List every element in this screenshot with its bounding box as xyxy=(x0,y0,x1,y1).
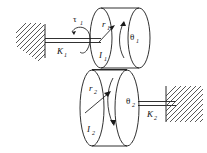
figure-canvas: τ 1 K 1 r 1 I 1 θ 1 r 2 I xyxy=(0,0,207,153)
right-spring-subscript: 2 xyxy=(154,115,157,121)
lower-angle-subscript: 2 xyxy=(132,102,135,108)
torsional-system-diagram: τ 1 K 1 r 1 I 1 θ 1 r 2 I xyxy=(0,0,207,153)
left-fixed-support xyxy=(16,23,45,61)
upper-inertia-subscript: 1 xyxy=(104,56,107,62)
upper-angle-symbol: θ xyxy=(130,32,134,42)
right-spring-symbol: K xyxy=(146,109,154,119)
left-spring-label: K 1 xyxy=(56,46,67,58)
torque-label: τ 1 xyxy=(73,14,83,26)
upper-inertia-label: I 1 xyxy=(98,50,107,62)
upper-inertia-symbol: I xyxy=(98,50,103,60)
lower-cylinder xyxy=(80,70,139,146)
lower-inertia-symbol: I xyxy=(86,124,91,134)
torque-symbol: τ xyxy=(73,14,77,24)
lower-rotation-arc xyxy=(108,78,113,124)
lower-radius-symbol: r xyxy=(89,83,93,93)
lower-inertia-subscript: 2 xyxy=(92,130,95,136)
left-spring-subscript: 1 xyxy=(64,52,67,58)
torque-subscript: 1 xyxy=(80,20,83,26)
lower-angle-symbol: θ xyxy=(126,96,130,106)
torque-arrow xyxy=(72,27,90,53)
lower-angle-label: θ 2 xyxy=(126,96,135,108)
torque-arc-right xyxy=(80,28,90,53)
right-spring-label: K 2 xyxy=(146,109,157,121)
lower-radius-subscript: 2 xyxy=(94,89,97,95)
right-wall-hatching xyxy=(166,86,203,122)
upper-radius-subscript: 1 xyxy=(107,25,110,31)
right-fixed-support xyxy=(166,86,203,122)
upper-radius-label: r 1 xyxy=(102,19,110,31)
lower-radius-label: r 2 xyxy=(89,83,97,95)
left-spring-symbol: K xyxy=(56,46,64,56)
lower-inertia-label: I 2 xyxy=(86,124,95,136)
upper-angle-label: θ 1 xyxy=(130,32,139,44)
lower-cylinder-right-face xyxy=(115,70,139,146)
upper-radius-symbol: r xyxy=(102,19,106,29)
lower-rotation-arrowhead xyxy=(110,120,116,126)
upper-rotation-arrow xyxy=(120,21,127,58)
torque-arc-left xyxy=(72,27,84,32)
upper-rotation-arc xyxy=(120,22,125,58)
left-shaft xyxy=(45,39,101,43)
lower-radius-arrow xyxy=(85,91,111,113)
left-wall-hatching xyxy=(16,23,45,61)
upper-angle-subscript: 1 xyxy=(136,38,139,44)
upper-rotation-arrowhead xyxy=(120,21,126,26)
